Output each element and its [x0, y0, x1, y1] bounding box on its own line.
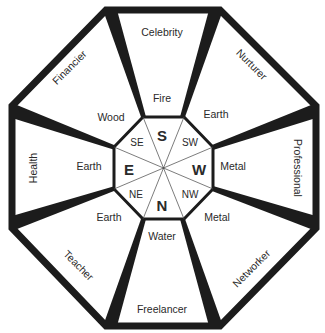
role-north: Freelancer [137, 303, 188, 315]
role-east: Health [27, 153, 39, 184]
direction-sw: SW [182, 137, 199, 148]
direction-w: W [192, 161, 207, 178]
direction-nw: NW [182, 189, 199, 200]
element-north: Water [148, 230, 176, 242]
role-south: Celebrity [141, 26, 183, 38]
direction-e: E [124, 161, 134, 178]
role-west: Professional [292, 139, 304, 197]
direction-ne: NE [129, 189, 143, 200]
element-southeast: Wood [97, 111, 124, 123]
bagua-diagram: S SW W NW N NE E SE Fire Earth Metal Met… [0, 0, 325, 333]
element-northeast: Earth [96, 211, 121, 223]
element-west: Metal [220, 160, 246, 172]
element-east: Earth [76, 160, 101, 172]
direction-n: N [157, 197, 168, 214]
element-south: Fire [153, 92, 171, 104]
direction-se: SE [130, 137, 144, 148]
element-southwest: Earth [203, 108, 228, 120]
element-northwest: Metal [204, 211, 230, 223]
direction-s: S [157, 127, 167, 144]
